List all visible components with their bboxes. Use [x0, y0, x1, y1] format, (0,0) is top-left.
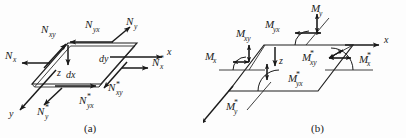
- axis-x-label-a: x: [166, 46, 172, 57]
- svg-text:yx: yx: [272, 25, 280, 34]
- moment-Myx-star: M yx *: [258, 64, 303, 91]
- svg-text:y: y: [233, 107, 238, 116]
- svg-text:*: *: [45, 103, 49, 112]
- force-label-Nyx: N yx: [84, 18, 100, 34]
- axis-y-label-a: y: [8, 108, 14, 119]
- svg-text:xy: xy: [115, 88, 123, 97]
- svg-text:xy: xy: [48, 30, 56, 39]
- svg-text:xy: xy: [243, 34, 251, 43]
- dim-dy-label: dy: [99, 53, 109, 64]
- figure-container: x y z dx dy N x N xy N yx: [0, 0, 406, 138]
- force-label-Nx-star: N x *: [151, 54, 164, 71]
- axis-x-label-b: x: [383, 34, 389, 45]
- caption-b: (b): [311, 122, 324, 135]
- force-label-Ny-star: N y *: [36, 103, 49, 121]
- axis-z-label-a: z: [56, 67, 61, 78]
- force-label-Nxy: N xy: [40, 23, 56, 39]
- moment-Myx: M yx: [264, 18, 321, 45]
- svg-text:x: x: [159, 62, 164, 71]
- moment-My: M y: [306, 2, 329, 45]
- svg-text:y: y: [44, 112, 49, 121]
- svg-text:xy: xy: [309, 58, 317, 67]
- svg-text:yx: yx: [295, 79, 303, 88]
- force-label-Nx: N x: [4, 49, 17, 64]
- svg-text:*: *: [116, 80, 120, 89]
- force-label-Nyx-star: N yx *: [78, 92, 94, 110]
- svg-text:N: N: [125, 15, 134, 27]
- svg-text:N: N: [151, 56, 160, 68]
- svg-text:*: *: [310, 49, 314, 58]
- svg-text:*: *: [296, 70, 300, 79]
- force-arrow-Ny: [112, 27, 130, 42]
- caption-a: (a): [84, 122, 97, 135]
- svg-text:*: *: [367, 51, 371, 60]
- svg-text:yx: yx: [86, 101, 94, 110]
- panel-a-membrane-forces: x y z dx dy N x N xy N yx: [0, 0, 203, 138]
- svg-text:*: *: [234, 98, 238, 107]
- axis-z-label-b: z: [278, 55, 283, 66]
- svg-text:x: x: [12, 55, 17, 64]
- plate-element-b: [229, 45, 353, 91]
- svg-text:N: N: [84, 18, 93, 30]
- force-label-Nxy-star: N xy *: [107, 80, 123, 97]
- svg-text:*: *: [160, 54, 164, 63]
- axis-y-arrow-a: [20, 70, 56, 110]
- svg-text:y: y: [133, 22, 138, 31]
- dim-dx-label: dx: [66, 69, 76, 80]
- svg-text:N: N: [4, 49, 13, 61]
- svg-text:N: N: [78, 94, 87, 106]
- svg-text:N: N: [36, 105, 45, 117]
- svg-text:N: N: [40, 23, 49, 35]
- svg-text:x: x: [212, 56, 217, 65]
- force-arrow-Nxy: [44, 44, 66, 68]
- panel-b-moment-resultants: x y z M x M xy M y: [203, 0, 406, 138]
- svg-text:y: y: [318, 9, 323, 18]
- svg-text:*: *: [87, 92, 91, 101]
- moment-Mx-star: M x *: [325, 48, 373, 70]
- svg-text:N: N: [107, 81, 116, 93]
- svg-text:yx: yx: [92, 25, 100, 34]
- svg-text:x: x: [366, 59, 371, 68]
